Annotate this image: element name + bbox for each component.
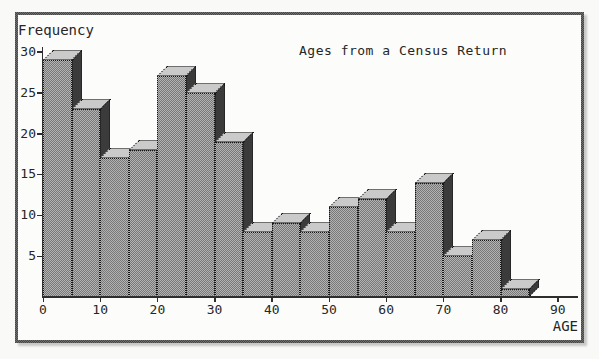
x-axis-line <box>42 296 579 298</box>
bar-front-face <box>415 183 444 297</box>
bar-front-face <box>358 199 387 297</box>
bar-front-face <box>443 256 472 297</box>
x-tick-label: 80 <box>485 303 517 317</box>
bar-front-face <box>129 150 158 297</box>
x-tick-label: 90 <box>542 303 574 317</box>
y-tick <box>37 256 42 258</box>
y-tick <box>37 51 42 53</box>
bar-front-face <box>72 109 101 297</box>
y-axis-title: Frequency <box>18 23 94 37</box>
y-tick-label: 30 <box>10 45 36 59</box>
bar-front-face <box>243 232 272 297</box>
y-tick <box>37 174 42 176</box>
x-axis-title: AGE <box>538 319 578 333</box>
x-tick-label: 50 <box>313 303 345 317</box>
y-tick-label: 15 <box>10 167 36 181</box>
y-tick-label: 5 <box>10 249 36 263</box>
bar-front-face <box>43 60 72 297</box>
bar-front-face <box>386 232 415 297</box>
bar-front-face <box>329 207 358 297</box>
x-tick-label: 30 <box>199 303 231 317</box>
chart-title: Ages from a Census Return <box>299 44 507 58</box>
y-tick <box>37 215 42 217</box>
histogram-plot: Frequency Ages from a Census Return AGE … <box>0 0 599 359</box>
x-tick-label: 0 <box>27 303 59 317</box>
y-tick <box>37 92 42 94</box>
y-tick-label: 20 <box>10 127 36 141</box>
x-tick-label: 70 <box>427 303 459 317</box>
bar-front-face <box>186 93 215 297</box>
bar-front-face <box>300 232 329 297</box>
x-tick-label: 40 <box>256 303 288 317</box>
bar-front-face <box>272 223 301 297</box>
bar-front-face <box>472 240 501 297</box>
y-tick <box>37 133 42 135</box>
x-tick-label: 10 <box>84 303 116 317</box>
x-tick-label: 20 <box>141 303 173 317</box>
bar-front-face <box>157 76 186 297</box>
y-tick-label: 25 <box>10 86 36 100</box>
bar-front-face <box>100 158 129 297</box>
scanned-page: Frequency Ages from a Census Return AGE … <box>0 0 599 359</box>
bar-front-face <box>215 142 244 297</box>
y-tick-label: 10 <box>10 208 36 222</box>
x-tick-label: 60 <box>370 303 402 317</box>
